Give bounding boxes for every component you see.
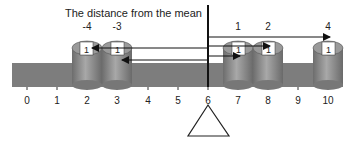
axis-label-5: 5 <box>175 95 181 106</box>
axis-label-7: 7 <box>235 95 241 106</box>
weight-cylinder-8: 1 <box>253 41 283 90</box>
axis-labels: 0 1 2 3 4 5 6 7 8 9 10 <box>24 95 334 106</box>
distance-labels: -4 -3 1 2 4 <box>83 21 332 32</box>
distance-label: 1 <box>235 21 241 32</box>
weight-cylinder-7: 1 <box>223 41 253 90</box>
fulcrum-triangle <box>188 105 229 136</box>
balance-diagram: The distance from the mean 0 1 2 3 4 5 6… <box>0 0 355 149</box>
axis-label-2: 2 <box>84 95 90 106</box>
distance-label: 4 <box>325 21 331 32</box>
axis-label-9: 9 <box>295 95 301 106</box>
axis-label-1: 1 <box>54 95 60 106</box>
axis-label-3: 3 <box>114 95 120 106</box>
weight-cylinder-10: 1 <box>313 41 343 90</box>
distance-label: -3 <box>113 21 122 32</box>
axis-ticks <box>27 87 328 90</box>
distance-label: -4 <box>83 21 92 32</box>
distance-label: 2 <box>265 21 271 32</box>
axis-label-0: 0 <box>24 95 30 106</box>
axis-label-8: 8 <box>265 95 271 106</box>
axis-label-10: 10 <box>322 95 334 106</box>
weight-value: 1 <box>115 45 120 55</box>
diagram-title: The distance from the mean <box>65 7 202 19</box>
weight-value: 1 <box>326 45 331 55</box>
weight-value: 1 <box>84 45 89 55</box>
axis-label-4: 4 <box>145 95 151 106</box>
beam <box>12 63 343 87</box>
